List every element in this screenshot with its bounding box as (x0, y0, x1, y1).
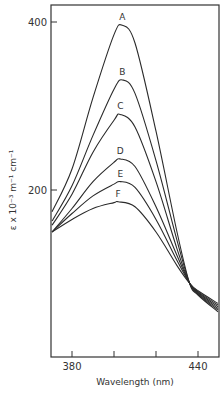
curve-label-C: C (117, 101, 123, 111)
x-tick-label: 380 (62, 361, 81, 372)
y-axis-title: ε x 10⁻³ m⁻¹ cm⁻¹ (8, 149, 18, 230)
y-axis-ticks: 200400 (28, 17, 57, 196)
curves (52, 24, 218, 311)
y-tick-label: 400 (28, 17, 47, 28)
y-tick-label: 200 (28, 185, 47, 196)
curve-label-E: E (117, 169, 123, 179)
curve-label-A: A (119, 12, 126, 22)
curve-A (52, 24, 218, 311)
curve-C (52, 114, 218, 308)
x-axis-title: Wavelength (nm) (96, 377, 174, 387)
curve-label-F: F (116, 189, 121, 199)
x-tick-label: 440 (188, 361, 207, 372)
curve-label-B: B (119, 67, 125, 77)
curve-D (52, 159, 218, 307)
curve-labels: ABCDEF (116, 12, 127, 198)
plot-frame (51, 5, 219, 357)
x-axis-ticks: 380440 (62, 351, 207, 372)
spectra-chart: 200400 380440 ABCDEF Wavelength (nm) ε x… (0, 0, 224, 394)
curve-label-D: D (117, 146, 124, 156)
curve-B (52, 80, 218, 310)
